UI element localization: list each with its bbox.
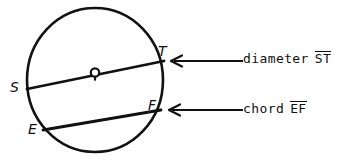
point-label-t: T <box>158 43 168 59</box>
annotation-chord-word: chord <box>243 101 284 116</box>
center-point-marker <box>91 68 99 76</box>
annotation-diameter-segment: ST <box>315 51 331 66</box>
point-label-f: F <box>148 97 157 113</box>
geometry-figure: S T E F <box>0 0 357 165</box>
annotation-chord: chord EF <box>243 101 307 116</box>
annotation-chord-segment: EF <box>290 101 306 116</box>
chord-segment-ef <box>43 110 161 130</box>
point-label-e: E <box>28 121 37 137</box>
point-label-s: S <box>10 79 19 95</box>
annotation-diameter-word: diameter <box>243 51 309 66</box>
annotation-diameter: diameter ST <box>243 51 331 66</box>
